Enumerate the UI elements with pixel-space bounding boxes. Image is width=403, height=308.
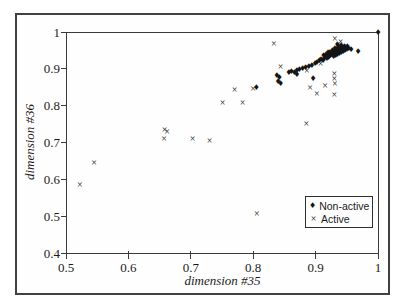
y-axis-tick: [61, 142, 66, 143]
y-axis-tick: [61, 32, 66, 33]
data-point-non-active: ♦: [374, 31, 381, 35]
data-point-active: ×: [271, 42, 277, 46]
data-point-active: ×: [304, 69, 310, 73]
data-point-active: ×: [331, 93, 337, 97]
x-axis-tick: [378, 251, 379, 259]
x-axis-tick: [190, 251, 191, 259]
data-point-non-active: ♦: [277, 82, 284, 86]
data-point-active: ×: [250, 87, 256, 91]
scatter-plot-figure: 10.90.80.70.60.50.40.50.60.70.80.91 ♦♦♦♦…: [0, 0, 403, 308]
data-point-active: ×: [314, 92, 320, 96]
data-point-non-active: ♦: [293, 73, 300, 77]
x-marker-icon: ×: [309, 214, 318, 224]
data-point-active: ×: [322, 84, 328, 88]
y-axis-title: dimension #36: [22, 104, 38, 180]
data-point-active: ×: [307, 86, 313, 90]
data-point-active: ×: [338, 40, 344, 44]
y-tick-label: 1: [32, 25, 60, 40]
y-axis-tick: [61, 216, 66, 217]
legend-entry-active: × Active: [309, 213, 369, 225]
data-point-active: ×: [77, 183, 83, 187]
legend-label-active: Active: [321, 213, 350, 225]
data-point-active: ×: [303, 122, 309, 126]
data-point-active: ×: [190, 137, 196, 141]
x-axis-title: dimension #35: [66, 273, 379, 289]
legend-label-nonactive: Non-active: [319, 200, 369, 212]
data-point-non-active: ♦: [354, 50, 361, 54]
y-axis-tick: [61, 105, 66, 106]
data-point-non-active: ♦: [345, 47, 352, 51]
data-point-active: ×: [161, 137, 167, 141]
data-point-active: ×: [254, 212, 260, 216]
diamond-marker-icon: ♦: [309, 201, 316, 211]
data-point-active: ×: [332, 82, 338, 86]
data-point-active: ×: [91, 161, 97, 165]
legend: ♦ Non-active × Active: [305, 196, 373, 228]
data-point-active: ×: [207, 139, 213, 143]
y-tick-label: 0.5: [32, 209, 60, 224]
legend-entry-nonactive: ♦ Non-active: [309, 200, 369, 212]
x-axis-tick: [253, 251, 254, 259]
x-axis-tick: [128, 251, 129, 259]
data-point-active: ×: [278, 65, 284, 69]
x-axis-tick: [315, 251, 316, 259]
y-axis-tick: [61, 179, 66, 180]
x-axis-tick: [66, 251, 67, 259]
y-axis-tick: [61, 68, 66, 69]
y-tick-label: 0.4: [32, 246, 60, 261]
data-point-active: ×: [232, 88, 238, 92]
data-point-active: ×: [220, 101, 226, 105]
data-point-active: ×: [319, 58, 325, 62]
y-tick-label: 0.9: [32, 61, 60, 76]
data-point-active: ×: [240, 101, 246, 105]
data-point-non-active: ♦: [310, 77, 317, 81]
